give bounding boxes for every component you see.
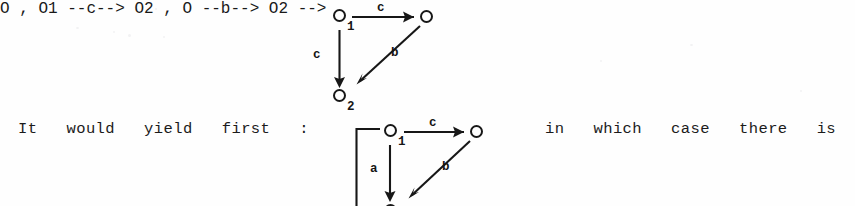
prose-line-before: It would yield first :	[18, 122, 309, 138]
scanned-page: O , O1 --c--> O2 , O --b--> O2 --> 1	[0, 0, 855, 206]
edge-b-diagonal	[409, 141, 471, 199]
scan-speckle	[800, 90, 802, 92]
lower-edge-label-b: b	[442, 161, 450, 174]
upper-node-3-subscript: 2	[347, 101, 355, 114]
lower-edge-label-c-top: c	[429, 117, 437, 130]
prose-line-after: in which case there is	[545, 122, 836, 138]
scan-speckle	[128, 34, 131, 37]
upper-edge-label-c-top: c	[377, 2, 385, 15]
upper-diagram: 1 2 c c b	[300, 0, 500, 112]
lower-diagram: 1 c a b	[350, 115, 500, 206]
scan-speckle	[113, 31, 115, 33]
upper-node-3	[333, 89, 346, 102]
upper-diagram-edges	[300, 0, 500, 112]
lower-node-2	[470, 125, 483, 138]
upper-node-1-subscript: 1	[347, 21, 355, 34]
scan-speckle	[690, 44, 693, 46]
scan-speckle	[155, 8, 157, 10]
upper-node-2	[420, 10, 433, 23]
edge-c-vertical	[334, 30, 345, 88]
lower-edge-label-a-left: a	[370, 163, 378, 176]
edge-a-vertical	[385, 145, 396, 202]
scan-speckle	[163, 36, 165, 38]
upper-edge-label-b: b	[391, 47, 399, 60]
scan-speckle	[76, 27, 79, 29]
edge-b-diagonal	[357, 26, 421, 85]
lower-node-1-subscript: 1	[398, 136, 406, 149]
lower-node-1	[384, 124, 397, 137]
upper-edge-label-c-left: c	[313, 49, 321, 62]
scan-speckle	[600, 60, 602, 62]
upper-node-1	[333, 9, 346, 22]
